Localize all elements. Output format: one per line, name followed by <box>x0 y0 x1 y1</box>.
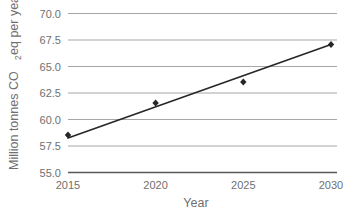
chart-container: 70.0 67.5 65.0 62.5 60.0 57.5 55.0 2015 … <box>0 0 353 212</box>
data-points <box>65 41 334 139</box>
x-tick-label-2025: 2025 <box>231 179 255 191</box>
x-axis-tick-labels: 2015 2020 2025 2030 <box>56 179 343 191</box>
trendline <box>68 45 331 139</box>
gridlines <box>68 14 337 147</box>
y-axis-tick-labels: 70.0 67.5 65.0 62.5 60.0 57.5 55.0 <box>40 8 61 179</box>
y-tick-label-62-5: 62.5 <box>40 87 61 99</box>
y-tick-label-70: 70.0 <box>40 8 61 20</box>
y-tick-label-67-5: 67.5 <box>40 34 61 46</box>
y-axis-title-suffix: eq per year <box>7 0 21 55</box>
y-tick-label-55: 55.0 <box>40 167 61 179</box>
y-tick-label-57-5: 57.5 <box>40 140 61 152</box>
line-chart-svg: 70.0 67.5 65.0 62.5 60.0 57.5 55.0 2015 … <box>0 0 353 212</box>
y-tick-label-65: 65.0 <box>40 61 61 73</box>
x-axis-title: Year <box>183 196 208 210</box>
data-point-2030 <box>328 41 334 48</box>
x-tick-label-2030: 2030 <box>319 179 343 191</box>
y-axis-title-prefix: Million tonnes CO <box>7 71 21 170</box>
y-axis-title: Million tonnes CO 2 eq per year <box>7 0 23 170</box>
x-tick-label-2015: 2015 <box>56 179 80 191</box>
y-tick-label-60: 60.0 <box>40 114 61 126</box>
x-tick-label-2020: 2020 <box>143 179 167 191</box>
data-point-2025 <box>240 79 246 86</box>
